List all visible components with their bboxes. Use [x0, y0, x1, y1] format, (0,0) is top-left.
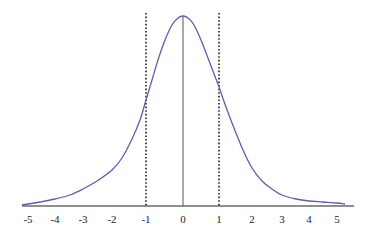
x-tick-label: 4	[306, 213, 312, 225]
density-chart: -5-4-3-2-1012345	[0, 0, 374, 237]
x-tick-label: 2	[249, 213, 255, 225]
vertical-lines	[146, 13, 219, 206]
x-tick-label: 5	[334, 213, 340, 225]
x-tick-labels: -5-4-3-2-1012345	[23, 213, 340, 225]
x-tick-label: -4	[50, 213, 60, 225]
x-tick-label: -3	[78, 213, 88, 225]
x-tick-label: -1	[141, 213, 150, 225]
x-tick-label: -5	[23, 213, 33, 225]
x-tick-label: -2	[107, 213, 116, 225]
x-tick-label: 1	[216, 213, 222, 225]
x-tick-label: 3	[279, 213, 285, 225]
x-tick-label: 0	[180, 213, 186, 225]
